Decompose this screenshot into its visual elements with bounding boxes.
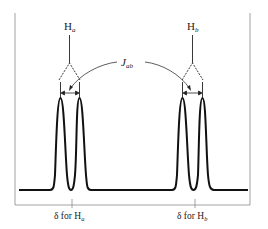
nmr-diagram: Ha Hb Jab δ for Ha δ for Hb bbox=[0, 0, 268, 229]
label-coupling-constant: Jab bbox=[121, 56, 133, 70]
label-delta-a: δ for Ha bbox=[54, 211, 84, 222]
label-delta-b: δ for Hb bbox=[177, 211, 208, 222]
label-ha: Ha bbox=[64, 20, 76, 34]
label-hb: Hb bbox=[187, 20, 199, 34]
splitting-tree-b bbox=[182, 35, 203, 98]
double-arrow-b bbox=[183, 91, 202, 95]
coupling-arrowheads bbox=[69, 85, 191, 91]
plot-frame bbox=[15, 13, 250, 205]
delta-ticks bbox=[72, 199, 195, 208]
double-arrow-a bbox=[61, 91, 79, 95]
spectrum-trace bbox=[19, 98, 248, 190]
